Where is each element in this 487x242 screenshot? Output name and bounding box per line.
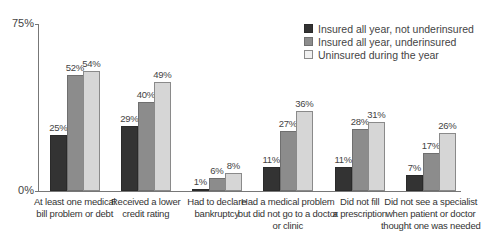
bar bbox=[225, 173, 242, 191]
bar bbox=[67, 75, 84, 191]
bar bbox=[263, 167, 280, 191]
bar bbox=[154, 82, 171, 191]
bar bbox=[439, 133, 456, 191]
value-label: 54% bbox=[76, 58, 106, 69]
bar bbox=[83, 71, 100, 191]
bar bbox=[280, 131, 297, 191]
value-label: 31% bbox=[361, 109, 391, 120]
legend-label: Insured all year, not underinsured bbox=[318, 23, 474, 35]
legend-item: Uninsured during the year bbox=[304, 48, 474, 61]
bar bbox=[296, 111, 313, 191]
legend-item: Insured all year, not underinsured bbox=[304, 22, 474, 35]
y-tick-zero: 0% bbox=[0, 184, 34, 196]
bar bbox=[192, 189, 209, 191]
value-label: 26% bbox=[432, 120, 462, 131]
value-label: 36% bbox=[289, 98, 319, 109]
bar bbox=[368, 122, 385, 191]
bar bbox=[121, 126, 138, 191]
value-label: 8% bbox=[218, 160, 248, 171]
y-axis bbox=[38, 24, 39, 191]
bar bbox=[209, 178, 226, 191]
legend-swatch-light bbox=[304, 50, 313, 59]
bar bbox=[406, 175, 423, 191]
bar bbox=[138, 102, 155, 191]
legend-item: Insured all year, underinsured bbox=[304, 35, 474, 48]
legend-label: Insured all year, underinsured bbox=[318, 36, 456, 48]
y-axis-tick bbox=[35, 24, 39, 25]
value-label: 49% bbox=[147, 69, 177, 80]
bar bbox=[335, 167, 352, 191]
bar bbox=[423, 153, 440, 191]
legend: Insured all year, not underinsured Insur… bbox=[304, 22, 474, 61]
legend-swatch-mid bbox=[304, 37, 313, 46]
bar bbox=[352, 129, 369, 191]
y-tick-max: 75% bbox=[0, 17, 34, 29]
category-label: Did not see a specialist when patient or… bbox=[371, 196, 487, 232]
bar bbox=[50, 135, 67, 191]
legend-label: Uninsured during the year bbox=[318, 49, 439, 61]
legend-swatch-dark bbox=[304, 24, 313, 33]
x-axis bbox=[35, 191, 461, 192]
